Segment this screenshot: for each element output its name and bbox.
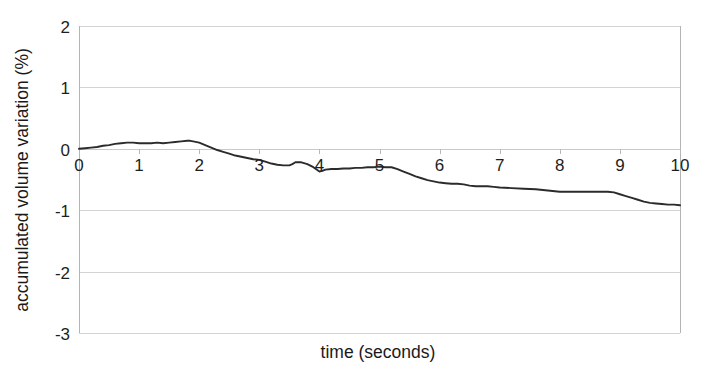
line-chart: 210-1-2-3 012345678910 time (seconds) ac… <box>0 0 715 381</box>
x-tick-label: 7 <box>495 156 504 175</box>
x-axis-title: time (seconds) <box>321 342 436 362</box>
y-tick-label: 2 <box>61 18 70 37</box>
x-tick-label: 3 <box>255 156 264 175</box>
x-tick-label: 2 <box>194 156 203 175</box>
y-axis-tick-labels: 210-1-2-3 <box>55 18 70 344</box>
y-tick-label: -1 <box>55 202 70 221</box>
x-tick-label: 5 <box>375 156 384 175</box>
x-tick-label: 10 <box>671 156 690 175</box>
x-tick-label: 6 <box>435 156 444 175</box>
y-tick-label: -2 <box>55 264 70 283</box>
y-tick-label: 1 <box>61 79 70 98</box>
x-tick-label: 9 <box>615 156 624 175</box>
y-axis-title: accumulated volume variation (%) <box>12 48 32 312</box>
x-tick-label: 8 <box>555 156 564 175</box>
x-tick-label: 4 <box>315 156 324 175</box>
y-tick-label: -3 <box>55 325 70 344</box>
x-axis-tick-labels: 012345678910 <box>74 156 689 175</box>
chart-container: 210-1-2-3 012345678910 time (seconds) ac… <box>0 0 715 381</box>
gridlines-group <box>79 26 681 334</box>
y-tick-label: 0 <box>61 141 70 160</box>
x-tick-label: 0 <box>74 156 83 175</box>
x-tick-label: 1 <box>134 156 143 175</box>
